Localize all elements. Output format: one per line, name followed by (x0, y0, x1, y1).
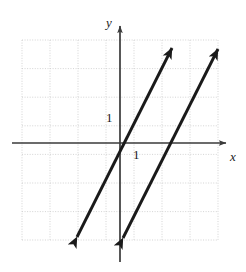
y-axis-label: y (106, 16, 112, 29)
graph-figure: 1 1 y x (0, 0, 246, 272)
y-axis-tick-label: 1 (106, 111, 113, 124)
x-axis-tick-label: 1 (133, 148, 140, 161)
x-axis-label: x (230, 150, 236, 163)
coordinate-plane-svg (0, 0, 246, 272)
